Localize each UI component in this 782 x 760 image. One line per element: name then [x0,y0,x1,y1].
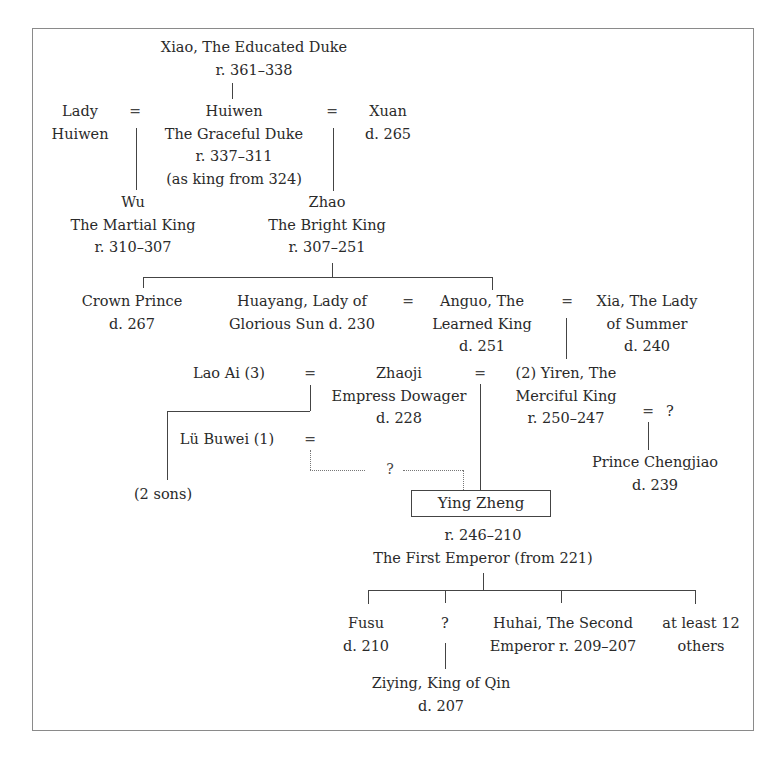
node-two-sons: (2 sons) [134,483,192,506]
dotted-line-lu-buwei [310,450,311,470]
line-to-ying-zheng [480,384,481,490]
node-chengjiao: Prince Chengjiao d. 239 [592,451,718,496]
leg-fusu [368,590,369,604]
leg-unknown-son [445,590,446,603]
line-lao-ai-sons [310,385,311,411]
node-wu: Wu The Martial King r. 310–307 [70,191,195,259]
node-xuan: Xuan d. 265 [365,100,411,145]
node-lady-huiwen: Lady Huiwen [52,100,109,145]
node-zhaoji: Zhaoji Empress Dowager d. 228 [332,362,467,430]
line-to-yiren [566,318,567,359]
marriage-symbol: = [474,362,486,384]
node-lu-buwei: Lü Buwei (1) [180,428,274,451]
node-others: at least 12 others [662,612,739,657]
dotted-line-to-ying-zheng [463,470,464,490]
marriage-symbol: = [561,290,573,312]
marriage-symbol: = [304,428,316,450]
marriage-symbol: = [304,362,316,384]
node-huhai: Huhai, The Second Emperor r. 209–207 [490,612,637,657]
node-ying-zheng-details: r. 246–210 The First Emperor (from 221) [373,524,592,569]
line-to-zhao [333,128,334,191]
line-xiao-huiwen [232,83,233,99]
node-ying-zheng-box: Ying Zheng [411,490,551,517]
leg-anguo [492,277,493,290]
line-to-ziying [445,643,446,669]
line-to-chengjiao [648,422,649,450]
node-xia: Xia, The Lady of Summer d. 240 [597,290,698,358]
marriage-symbol: = [326,100,338,122]
node-yiren: (2) Yiren, The Merciful King r. 250–247 [515,362,616,430]
node-unknown-son: ? [441,612,449,635]
node-crown-prince: Crown Prince d. 267 [82,290,182,335]
dotted-line-horizontal-right [403,470,463,471]
node-huiwen: Huiwen The Graceful Duke r. 337–311 (as … [165,100,303,190]
leg-huhai [561,590,562,603]
line-ying-zheng-children [483,573,484,590]
leg-others [695,590,696,604]
bracket-ying-zheng-children [368,590,695,591]
marriage-symbol: = [129,100,141,122]
uncertain-paternity-mark: ? [386,459,394,479]
node-anguo: Anguo, The Learned King d. 251 [432,290,532,358]
leg-crown-prince [143,277,144,288]
node-xiao: Xiao, The Educated Duke r. 361–338 [161,36,347,81]
bracket-zhao-children [143,277,492,278]
node-fusu: Fusu d. 210 [343,612,389,657]
dotted-line-horizontal-left [310,470,365,471]
line-to-wu [136,128,137,190]
node-ziying: Ziying, King of Qin d. 207 [372,672,511,717]
line-to-two-sons [167,411,168,480]
marriage-symbol: = [402,290,414,312]
node-zhao: Zhao The Bright King r. 307–251 [268,191,386,259]
line-zhao-children [332,263,333,277]
node-huayang: Huayang, Lady of Glorious Sun d. 230 [229,290,375,335]
node-yiren-spouse: ? [666,400,674,423]
line-lao-ai-sons-horizontal [167,411,310,412]
marriage-symbol: = [642,400,654,422]
node-lao-ai: Lao Ai (3) [193,362,265,385]
